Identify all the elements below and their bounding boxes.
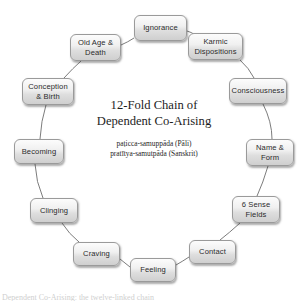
chain-link-contact-to-feeling (176, 257, 189, 265)
title-line-2: Dependent Co-Arising (74, 114, 234, 130)
chain-link-consciousness-to-name-and-form (263, 104, 272, 139)
node-conception-and-birth[interactable]: Conception& Birth (22, 78, 74, 105)
dependent-co-arising-diagram: IgnoranceKarmicDispositionsConsciousness… (0, 0, 308, 301)
node-label-line-2: Fields (242, 210, 271, 219)
node-karmic-dispositions[interactable]: KarmicDispositions (188, 33, 243, 60)
node-label-line-1: Ignorance (143, 23, 178, 32)
node-label-line-1: Clinging (40, 206, 68, 215)
chain-link-six-sense-fields-to-contact (220, 223, 240, 240)
node-label-line-1: Conception (28, 82, 67, 91)
node-becoming[interactable]: Becoming (14, 139, 64, 164)
footer-caption: Dependent Co-Arising: the twelve-linked … (2, 293, 306, 301)
node-craving[interactable]: Craving (73, 242, 120, 266)
node-feeling[interactable]: Feeling (130, 258, 176, 282)
node-label-line-1: Karmic (194, 37, 236, 46)
node-label-line-1: Consciousness (232, 86, 285, 95)
node-contact[interactable]: Contact (189, 240, 236, 264)
node-label-line-1: 6 Sense (242, 200, 271, 209)
chain-link-becoming-to-conception-and-birth (40, 105, 46, 139)
node-label-line-1: Contact (199, 247, 226, 256)
chain-link-karmic-dispositions-to-consciousness (240, 60, 254, 78)
chain-link-craving-to-clinging (62, 223, 79, 242)
node-label-line-2: Death (78, 48, 113, 57)
node-six-sense-fields[interactable]: 6 SenseFields (232, 196, 280, 223)
subtitle-block: paṭicca-samuppāda (Pāli) pratītya-samutp… (74, 139, 234, 158)
center-title-block: 12-Fold Chain of Dependent Co-Arising pa… (74, 98, 234, 158)
node-label-line-1: Becoming (22, 147, 57, 156)
chain-link-clinging-to-becoming (35, 164, 43, 198)
subtitle-pali: paṭicca-samuppāda (Pāli) (74, 139, 234, 149)
node-label-line-2: Form (256, 153, 284, 162)
node-label-line-1: Name & (256, 143, 284, 152)
chain-link-name-and-form-to-six-sense-fields (257, 166, 268, 196)
node-clinging[interactable]: Clinging (30, 198, 78, 223)
node-label-line-2: Dispositions (194, 47, 236, 56)
node-label-line-1: Craving (83, 249, 110, 258)
node-consciousness[interactable]: Consciousness (229, 78, 287, 104)
title-line-1: 12-Fold Chain of (74, 98, 234, 114)
chain-link-conception-and-birth-to-old-age-and-death (64, 61, 81, 78)
node-label-line-1: Feeling (140, 265, 166, 274)
node-label-line-2: & Birth (28, 92, 67, 101)
chain-link-feeling-to-craving (120, 259, 130, 267)
node-label-line-1: Old Age & (78, 38, 113, 47)
chain-link-old-age-and-death-to-ignorance (121, 38, 134, 45)
node-old-age-and-death[interactable]: Old Age &Death (70, 34, 121, 61)
node-name-and-form[interactable]: Name &Form (246, 139, 294, 166)
subtitle-sanskrit: pratītya-samutpāda (Sanskrit) (74, 149, 234, 159)
node-ignorance[interactable]: Ignorance (134, 15, 187, 41)
